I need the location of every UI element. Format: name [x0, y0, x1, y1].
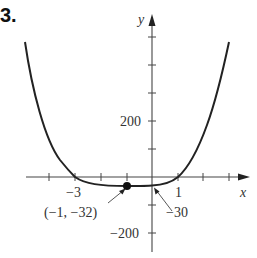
- minimum-point-dot: [123, 182, 131, 190]
- y-axis-arrow-icon: [149, 14, 156, 26]
- x-axis: [26, 173, 250, 181]
- x-tick-label-neg3: −3: [66, 185, 81, 200]
- y-axis-label: y: [136, 12, 145, 27]
- x-axis-label: x: [239, 185, 247, 200]
- y-tick-label-200: 200: [120, 114, 141, 129]
- y-intercept-label: −30: [166, 205, 188, 220]
- x-axis-arrow-icon: [238, 174, 250, 181]
- y-axis: [148, 14, 156, 252]
- min-point-arrow: [108, 189, 126, 204]
- minimum-point-label: (−1, −32): [44, 205, 97, 221]
- x-tick-label-1: 1: [175, 185, 182, 200]
- graph: y x 200 −200 −3 1 (−1, −32) −30: [0, 0, 257, 258]
- y-tick-label-neg200: −200: [110, 226, 139, 241]
